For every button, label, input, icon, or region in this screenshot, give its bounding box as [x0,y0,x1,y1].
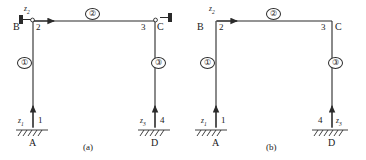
caption-b: (b) [266,143,277,152]
frame-panel-b: z2 B 2 3 C ① ② ③ z1 1 4 z3 A D (b) [183,0,366,160]
node-label-4-b: 4 [318,116,323,125]
element-label-3-b: ③ [328,57,343,69]
element-label-2-a: ② [85,8,100,20]
node-label-2-a: 2 [36,23,41,32]
joint-label-d-a: D [151,138,158,148]
dof-label-z1-b: z1 [201,117,207,127]
node-label-3-b: 3 [321,23,326,32]
node-label-1-b: 1 [221,116,226,125]
dof-label-z3-b: z3 [336,117,342,127]
frame-panel-a: z2 B 2 3 C ① ② ③ z1 1 z3 4 A D (a) [0,0,183,160]
frame-drawing-a [0,0,183,160]
node-label-4-a: 4 [160,116,165,125]
caption-a: (a) [83,143,93,152]
node-label-3-a: 3 [141,23,146,32]
joint-label-d-b: D [328,138,335,148]
joint-label-a-a: A [29,138,36,148]
joint-label-a-b: A [212,138,219,148]
ground-support-a-a [16,130,48,136]
ground-support-d-a [138,130,170,136]
dof-label-z1-a: z1 [18,117,24,127]
frame-members-a [33,21,155,127]
dof-label-z3-a: z3 [140,117,146,127]
joint-label-b-a: B [13,22,20,32]
node-label-2-b: 2 [219,23,224,32]
dof-label-z2-b: z2 [209,5,215,15]
ground-support-a-b [195,130,227,136]
wall-support-b-a [19,15,34,24]
ground-support-d-b [312,130,348,136]
element-label-1-b: ① [200,57,215,69]
element-label-1-a: ① [17,57,32,69]
joint-label-c-a: C [157,22,164,32]
joint-label-b-b: B [197,22,204,32]
dof-label-z2-a: z2 [24,5,30,15]
joint-label-c-b: C [335,22,342,32]
element-label-2-b: ② [266,8,281,20]
frame-members-b [216,21,332,127]
element-label-3-a: ③ [151,57,166,69]
node-label-1-a: 1 [38,116,43,125]
